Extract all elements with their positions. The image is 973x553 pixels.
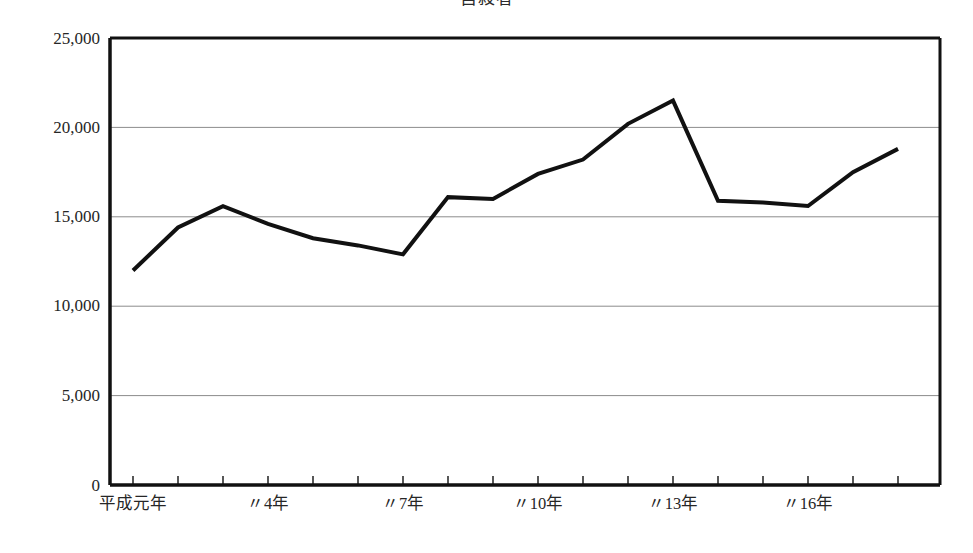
- x-axis-tick-label: 〃16年: [783, 495, 834, 513]
- x-axis-tick-label: 〃4年: [247, 495, 289, 513]
- x-axis-tick-label: 〃7年: [382, 495, 424, 513]
- x-axis-tick-label: 平成元年: [99, 495, 167, 513]
- x-axis-tick-label: 〃13年: [648, 495, 699, 513]
- x-axis-label-group: 平成元年〃4年〃7年〃10年〃13年〃16年: [0, 0, 973, 553]
- x-axis-tick-label: 〃10年: [513, 495, 564, 513]
- chart-container: 自殺者 25,000 20,000 15,000 10,000 5,000 0 …: [0, 0, 973, 553]
